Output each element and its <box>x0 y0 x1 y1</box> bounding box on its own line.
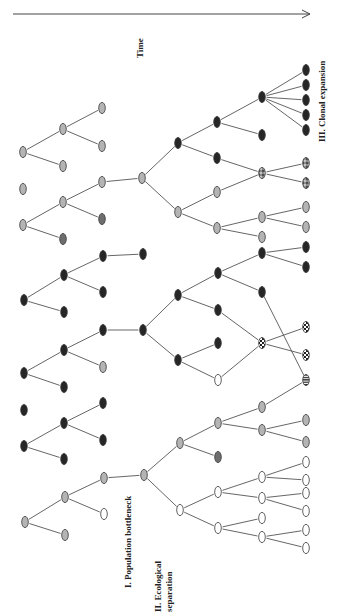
lineage-node-gray <box>60 196 67 207</box>
lineage-edge <box>68 425 99 438</box>
lineage-edge <box>68 277 99 290</box>
lineage-edge <box>67 110 98 126</box>
lineage-node-white <box>303 505 310 516</box>
stage-3-label: III. Clonal expansion <box>317 61 327 142</box>
lineage-edge <box>223 493 258 498</box>
lineage-edge <box>145 147 174 175</box>
lineage-node-darkgray <box>99 213 106 224</box>
lineage-edge <box>28 448 59 458</box>
lineage-edge <box>147 479 176 507</box>
lineage-node-white <box>303 456 310 467</box>
lineage-edge <box>264 297 304 376</box>
lineage-edge <box>267 174 302 182</box>
lineage-edge <box>184 494 214 508</box>
lineage-node-white <box>215 374 222 385</box>
lineage-node-dark <box>21 440 28 451</box>
lineage-node-gray <box>60 160 67 171</box>
lineage-node-white <box>215 486 222 497</box>
lineage-node-dark <box>61 344 68 355</box>
lineage-edge <box>266 255 301 266</box>
lineage-edge <box>28 375 59 386</box>
lineage-edge <box>222 229 258 236</box>
lineage-edge <box>182 362 214 377</box>
lineage-edge <box>107 179 138 182</box>
lineage-node-gray <box>99 176 106 187</box>
lineage-edge <box>184 425 214 440</box>
lineage-node-dark <box>259 247 266 258</box>
lineage-edge <box>222 255 258 271</box>
lineage-node-white <box>215 522 222 533</box>
lineage-node-gray <box>259 401 266 412</box>
lineage-edge <box>221 99 258 119</box>
lineage-edge <box>182 124 213 140</box>
lineage-node-dark <box>175 354 182 365</box>
lineage-edge <box>182 194 213 209</box>
lineage-edge <box>67 204 98 217</box>
lineage-node-dark <box>259 91 266 102</box>
lineage-edge <box>68 352 99 365</box>
lineage-edge <box>222 275 258 290</box>
lineage-edge <box>182 214 212 226</box>
lineage-edge <box>28 426 60 444</box>
lineage-edge <box>27 132 59 150</box>
lineage-edge <box>28 301 59 310</box>
lineage-node-dark <box>100 286 107 297</box>
lineage-node-white <box>101 508 108 519</box>
lineage-edge <box>147 446 176 471</box>
lineage-node-dark <box>61 453 68 464</box>
lineage-node-dark <box>303 79 310 90</box>
lineage-node-darkgray <box>215 451 222 462</box>
lineage-node-dark <box>175 137 182 148</box>
lineage-node-dark <box>175 289 182 300</box>
lineage-node-white <box>177 504 184 515</box>
lineage-node-gray <box>259 424 266 435</box>
lineage-node-gray <box>215 417 222 428</box>
lineage-node-gray <box>303 414 310 425</box>
lineage-edge <box>27 154 58 165</box>
lineage-node-gray <box>20 183 27 194</box>
lineage-node-gray <box>100 361 107 372</box>
lineage-node-gray <box>62 529 69 540</box>
lineage-edge <box>267 97 302 99</box>
lineage-node-white <box>259 492 266 503</box>
lineage-edge <box>267 248 302 253</box>
lineage-node-dark <box>61 417 68 428</box>
lineage-node-white <box>303 487 310 498</box>
lineage-node-checker <box>303 349 310 360</box>
lineage-edge <box>222 313 259 340</box>
lineage-node-dark <box>21 404 28 415</box>
lineage-edge <box>267 164 302 172</box>
lineage-edge <box>223 529 258 536</box>
lineage-node-dark <box>61 269 68 280</box>
lineage-node-gray <box>139 172 146 183</box>
lineage-node-dark <box>100 397 107 408</box>
lineage-edge <box>182 275 214 292</box>
lineage-edge <box>109 475 140 477</box>
lineage-node-dark <box>140 248 147 259</box>
lineage-edge <box>184 445 213 456</box>
lineage-edge <box>108 254 139 255</box>
lineage-node-gray <box>99 140 106 151</box>
lineage-edge <box>266 499 301 509</box>
lineage-node-gray <box>175 206 182 217</box>
lineage-edge <box>27 205 59 223</box>
lineage-node-dots <box>303 177 310 188</box>
lineage-edge <box>221 175 257 190</box>
lineage-node-white <box>303 474 310 485</box>
lineage-node-dark <box>259 129 266 140</box>
lineage-node-dark <box>61 306 68 317</box>
lineage-edge <box>29 524 60 534</box>
lineage-node-white <box>303 524 310 535</box>
lineage-edge <box>266 99 301 113</box>
lineage-node-white <box>259 471 266 482</box>
lineage-edge <box>266 383 302 405</box>
lineage-edge <box>266 538 301 547</box>
lineage-edge <box>222 409 257 422</box>
lineage-node-dark <box>21 367 28 378</box>
lineage-node-dark <box>140 324 147 335</box>
lineage-node-gray <box>177 437 184 448</box>
lineage-edge <box>266 329 301 342</box>
lineage-edge <box>28 353 60 371</box>
lineage-edge <box>267 218 302 226</box>
lineage-edge <box>267 531 302 536</box>
